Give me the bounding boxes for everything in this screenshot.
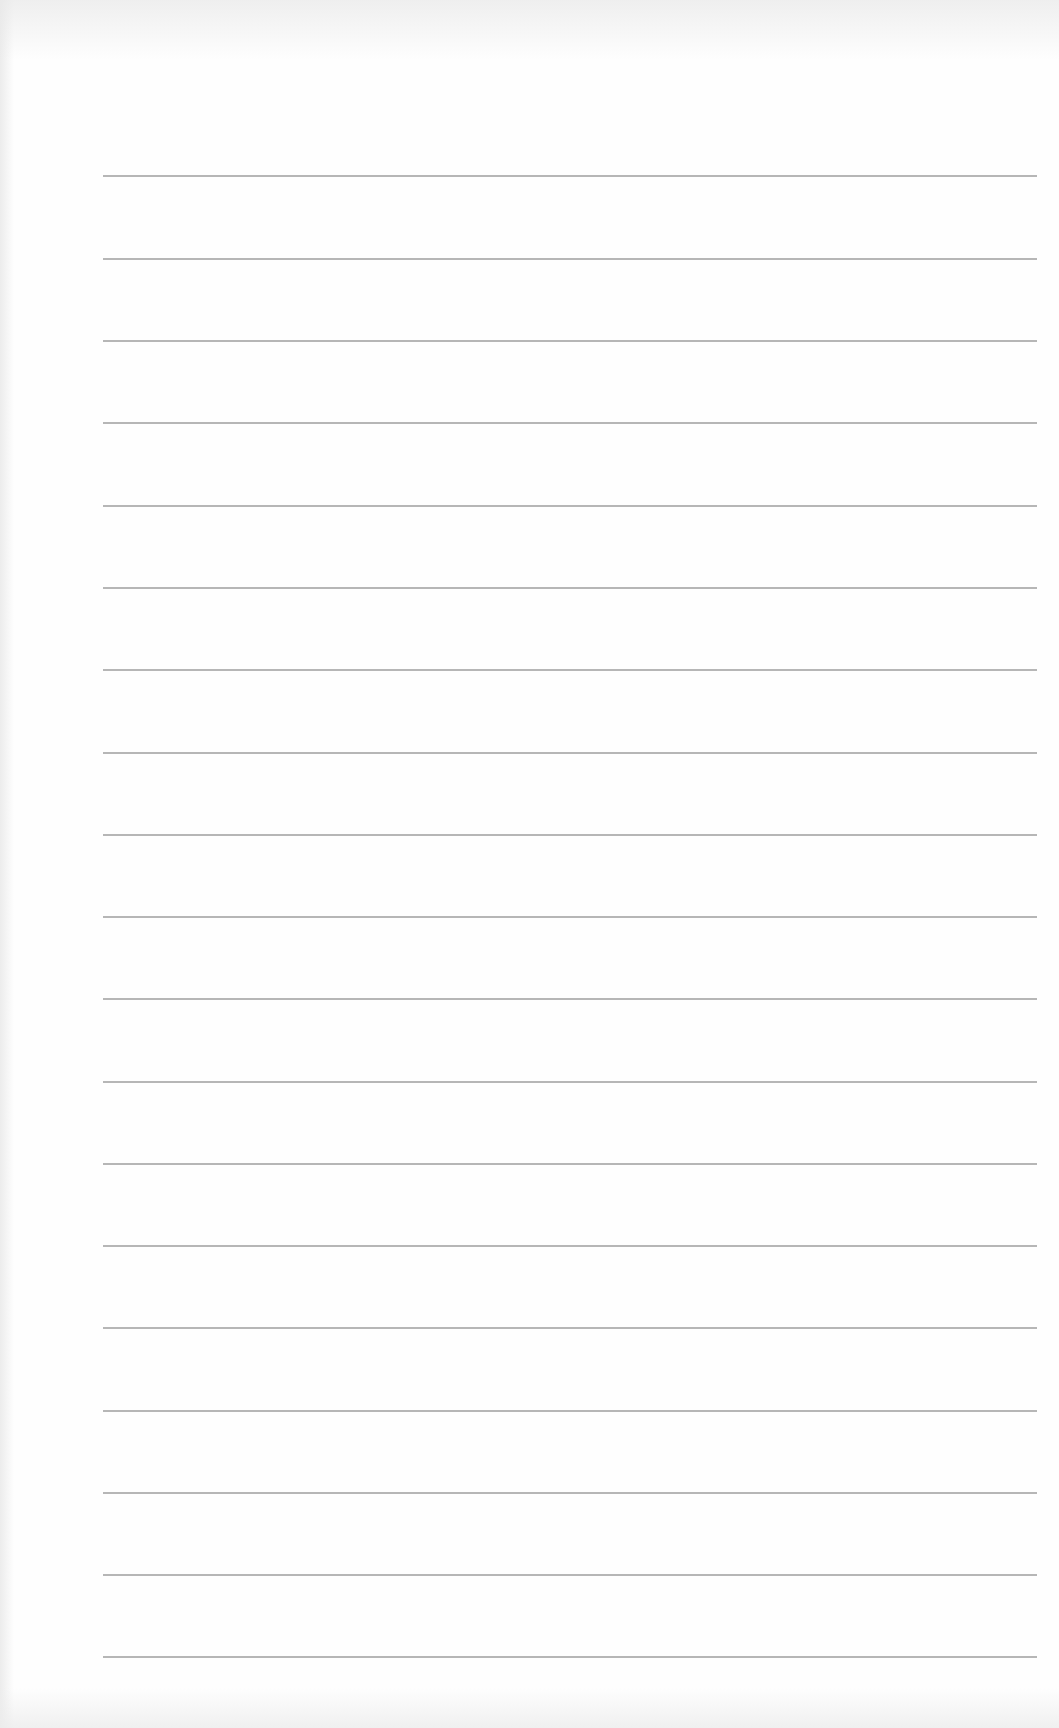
- ruled-line: [103, 587, 1037, 589]
- top-show-through: [0, 0, 1059, 60]
- ruled-line: [103, 1081, 1037, 1083]
- ruled-line: [103, 998, 1037, 1000]
- ruled-line: [103, 340, 1037, 342]
- ruled-line: [103, 1574, 1037, 1576]
- ruled-line: [103, 1245, 1037, 1247]
- ruled-line: [103, 1163, 1037, 1165]
- ruled-line: [103, 505, 1037, 507]
- ruled-line: [103, 1492, 1037, 1494]
- ruled-line: [103, 258, 1037, 260]
- ruled-line: [103, 1410, 1037, 1412]
- ruled-line: [103, 916, 1037, 918]
- ruled-line: [103, 752, 1037, 754]
- lined-paper-page: [0, 0, 1059, 1728]
- ruled-line: [103, 1656, 1037, 1658]
- ruled-line: [103, 834, 1037, 836]
- ruled-line: [103, 175, 1037, 177]
- ruled-line: [103, 422, 1037, 424]
- bottom-show-through: [0, 1688, 1059, 1728]
- page-edge-shadow: [0, 0, 14, 1728]
- ruled-line: [103, 669, 1037, 671]
- ruled-line: [103, 1327, 1037, 1329]
